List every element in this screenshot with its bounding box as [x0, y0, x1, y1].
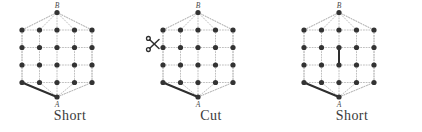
lattice-node	[54, 27, 59, 32]
lattice-node	[72, 80, 77, 85]
panel-caption: Short	[282, 108, 422, 124]
panel-2: BACut	[141, 0, 281, 132]
node-b-label: B	[55, 1, 60, 10]
lattice-node	[230, 80, 235, 85]
lattice-node	[230, 45, 235, 50]
lattice-node	[54, 62, 59, 67]
lattice-node	[354, 45, 359, 50]
lattice-diagram: BA	[282, 0, 422, 110]
lattice-node	[336, 80, 341, 85]
lattice-node	[213, 27, 218, 32]
lattice-node	[89, 80, 94, 85]
panel-caption: Cut	[141, 108, 281, 124]
lattice-node	[160, 62, 165, 67]
lattice-node	[195, 62, 200, 67]
lattice-node	[319, 80, 324, 85]
panel-caption: Short	[0, 108, 140, 124]
lattice-node	[319, 62, 324, 67]
lattice-node	[371, 62, 376, 67]
lattice-node	[89, 62, 94, 67]
scissors-icon	[147, 37, 160, 52]
node-a	[54, 94, 59, 99]
lattice-node	[336, 27, 341, 32]
lattice-node	[19, 62, 24, 67]
lattice-diagram: BA	[0, 0, 140, 110]
lattice-node	[371, 27, 376, 32]
panel-3: BAShort	[282, 0, 422, 132]
lattice-node	[54, 80, 59, 85]
lattice-node	[160, 80, 165, 85]
lattice-diagram: BA	[141, 0, 281, 110]
lattice-node	[37, 27, 42, 32]
node-b-label: B	[196, 1, 201, 10]
lattice-node	[54, 45, 59, 50]
lattice-node	[160, 45, 165, 50]
lattice-node	[301, 45, 306, 50]
lattice-node	[160, 27, 165, 32]
lattice-node	[19, 45, 24, 50]
lattice-node	[301, 80, 306, 85]
lattice-node	[354, 27, 359, 32]
lattice-node	[178, 80, 183, 85]
lattice-node	[37, 45, 42, 50]
lattice-node	[301, 27, 306, 32]
lattice-node	[195, 45, 200, 50]
lattice-node	[178, 45, 183, 50]
lattice-node	[213, 45, 218, 50]
lattice-node	[89, 45, 94, 50]
node-b	[195, 10, 200, 15]
lattice-node	[178, 62, 183, 67]
lattice-node	[195, 80, 200, 85]
lattice-node	[178, 27, 183, 32]
node-a	[336, 94, 341, 99]
node-a	[195, 94, 200, 99]
lattice-node	[37, 62, 42, 67]
lattice-node	[195, 27, 200, 32]
lattice-node	[213, 62, 218, 67]
lattice-node	[213, 80, 218, 85]
lattice-node	[319, 45, 324, 50]
lattice-node	[19, 27, 24, 32]
node-b-label: B	[337, 1, 342, 10]
lattice-node	[354, 80, 359, 85]
lattice-node	[354, 62, 359, 67]
lattice-node	[19, 80, 24, 85]
lattice-node	[89, 27, 94, 32]
panel-1: BAShort	[0, 0, 140, 132]
lattice-node	[371, 45, 376, 50]
grid-lines	[22, 30, 92, 83]
lattice-node	[319, 27, 324, 32]
lattice-node	[371, 80, 376, 85]
lattice-node	[336, 62, 341, 67]
lattice-node	[230, 62, 235, 67]
grid-lines	[163, 30, 233, 83]
lattice-node	[72, 27, 77, 32]
lattice-node	[72, 62, 77, 67]
lattice-node	[72, 45, 77, 50]
node-b	[336, 10, 341, 15]
lattice-node	[230, 27, 235, 32]
node-b	[54, 10, 59, 15]
lattice-node	[37, 80, 42, 85]
lattice-node	[301, 62, 306, 67]
lattice-node	[336, 45, 341, 50]
lattice-figure: BAShortBACutBAShort	[0, 0, 422, 132]
